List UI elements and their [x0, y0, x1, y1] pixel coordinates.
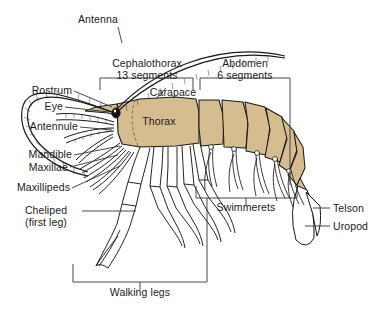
- label-thorax: Thorax: [133, 115, 185, 127]
- eye-shape: [112, 108, 120, 118]
- label-abdomen-line1: Abdomen: [211, 57, 279, 69]
- label-cephalothorax-line2: 13 segments: [104, 69, 190, 81]
- label-cephalothorax-line1: Cephalothorax: [104, 57, 190, 69]
- bracket-walking-legs: [73, 198, 207, 290]
- label-cheliped-line1: Cheliped: [25, 204, 67, 216]
- label-uropod: Uropod: [333, 220, 368, 232]
- label-telson: Telson: [333, 202, 364, 214]
- mouthparts-shapes: [80, 143, 134, 194]
- label-maxillae: Maxillae: [0, 161, 68, 173]
- label-rostrum: Rostrum: [0, 84, 72, 96]
- label-walking-legs: Walking legs: [90, 286, 190, 298]
- label-swimmerets: Swimmerets: [196, 201, 296, 213]
- label-carapace: Carapace: [140, 86, 206, 98]
- label-antennule: Antennule: [0, 120, 78, 132]
- label-cheliped: Cheliped (first leg): [12, 205, 80, 228]
- label-abdomen-line2: 6 segments: [211, 69, 279, 81]
- crustacean-anatomy-figure: Antenna Rostrum Eye Antennule Mandible M…: [0, 0, 368, 309]
- label-eye: Eye: [0, 100, 63, 112]
- label-mandible: Mandible: [0, 148, 72, 160]
- label-maxillipeds: Maxillipeds: [0, 181, 70, 193]
- label-antenna: Antenna: [78, 13, 118, 25]
- leader-antenna: [118, 27, 122, 43]
- label-cheliped-line2: (first leg): [25, 216, 67, 228]
